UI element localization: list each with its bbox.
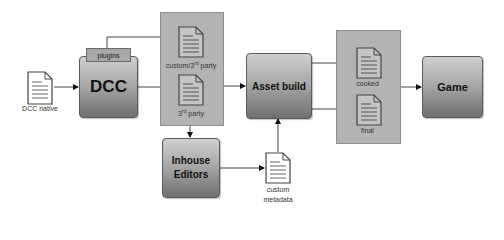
custom-3rd-party-label: custom/3rd party <box>160 60 222 69</box>
document-icon-dcc-native <box>27 71 53 105</box>
dcc-native-label: DCC native <box>15 105 65 112</box>
dcc-label: DCC <box>90 77 127 97</box>
asset-build-node: Asset build <box>246 53 312 119</box>
dcc-node: DCC <box>79 56 138 118</box>
inhouse-editors-node: Inhouse Editors <box>162 138 220 198</box>
document-icon-custom-metadata <box>265 152 291 184</box>
document-icon-final <box>356 94 382 126</box>
cooked-label: cooked <box>336 80 399 87</box>
document-icon-3rd-party <box>178 74 204 106</box>
custom-metadata-label-line1: custom <box>253 186 303 193</box>
document-icon-custom-3rd-party <box>178 26 204 58</box>
custom-metadata-label-line2: metadata <box>253 196 303 203</box>
inhouse-editors-label-line2: Editors <box>174 168 208 182</box>
game-node: Game <box>422 56 483 118</box>
game-label: Game <box>437 81 468 93</box>
final-label: final <box>336 127 399 134</box>
inhouse-editors-label-line1: Inhouse <box>172 154 210 168</box>
asset-build-label: Asset build <box>252 81 306 92</box>
3rd-party-label: 3rd party <box>160 108 222 117</box>
document-icon-cooked <box>356 47 382 79</box>
plugins-tab: plugins <box>86 48 131 62</box>
